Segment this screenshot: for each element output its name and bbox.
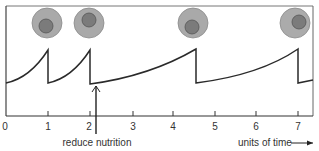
cell-4	[280, 8, 310, 38]
reduce-nutrition-arrow	[92, 86, 100, 134]
tick-label-4: 4	[170, 121, 176, 132]
x-ticks	[48, 111, 298, 116]
x-axis-label: units of time	[238, 137, 292, 148]
cell-growth-diagram: 0 1 2 3 4 5 6 7 reduce nutrition units o…	[0, 0, 319, 151]
cell-3	[178, 8, 208, 38]
tick-label-2: 2	[86, 121, 92, 132]
tick-label-3: 3	[130, 121, 136, 132]
cell-2	[74, 8, 104, 38]
tick-label-1: 1	[45, 121, 51, 132]
reduce-nutrition-label: reduce nutrition	[63, 137, 132, 148]
tick-label-7: 7	[295, 121, 301, 132]
tick-label-6: 6	[253, 121, 259, 132]
tick-label-0: 0	[2, 121, 8, 132]
arrow-right-icon	[291, 141, 313, 146]
nucleus	[185, 20, 199, 34]
nucleus	[292, 15, 306, 29]
nucleus	[82, 13, 96, 27]
tick-label-5: 5	[212, 121, 218, 132]
growth-curve	[6, 49, 313, 84]
nucleus	[39, 19, 53, 33]
cell-1	[32, 8, 62, 38]
